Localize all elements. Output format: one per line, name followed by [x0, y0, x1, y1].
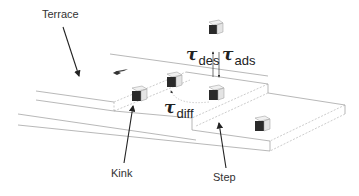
adatom-terrace-lower: [255, 116, 270, 131]
tau-des-label: τdes: [186, 44, 219, 64]
adatom-terrace-upper: [209, 85, 224, 100]
terrace-label: Terrace: [42, 8, 79, 20]
adatom-kink: [132, 86, 147, 101]
tau-ads-label: τads: [222, 44, 255, 64]
kink-arrow: [124, 106, 133, 163]
kink-label: Kink: [111, 167, 132, 179]
step-label: Step: [213, 171, 236, 183]
adatom-above: [209, 20, 223, 34]
tau-diff-label: τdiff: [164, 97, 194, 117]
adatom-step-edge: [167, 72, 182, 87]
terrace-arrow: [63, 27, 79, 76]
